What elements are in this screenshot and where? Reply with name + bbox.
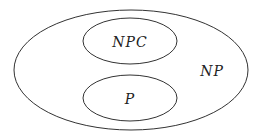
venn-diagram: NPC P NP: [0, 0, 260, 136]
npc-label: NPC: [111, 34, 147, 50]
p-label: P: [124, 91, 135, 107]
np-label: NP: [199, 63, 224, 79]
